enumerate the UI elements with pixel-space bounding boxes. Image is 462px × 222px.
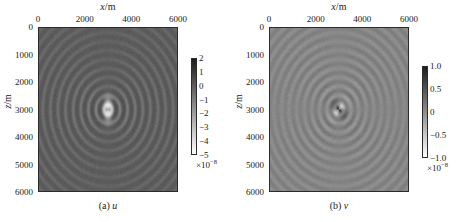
panel-a: x/m 0200040006000 0100020003000400050006… [0, 0, 231, 222]
ytick-label: 6000 [15, 187, 33, 197]
ytick-label: 3000 [246, 105, 264, 115]
panel-a-xlabel: x/m [38, 1, 178, 12]
colorbar-tick-label: −3 [199, 122, 209, 132]
xtick-label: 6000 [400, 14, 418, 24]
panel-b-plot-area [269, 27, 409, 192]
panel-a-colorbar [191, 58, 197, 155]
panel-a-xtick-labels: 0200040006000 [38, 14, 178, 26]
panel-a-caption: (a) u [38, 200, 178, 211]
xtick-label: 4000 [353, 14, 371, 24]
panel-b-xlabel: x/m [269, 1, 409, 12]
ytick-label: 6000 [246, 187, 264, 197]
xtick-label: 2000 [307, 14, 325, 24]
ytick-label: 3000 [15, 105, 33, 115]
xtick-label: 2000 [76, 14, 94, 24]
xtick-label: 0 [36, 14, 41, 24]
ytick-label: 0 [29, 22, 34, 32]
ytick-label: 1000 [246, 50, 264, 60]
panel-b-colorbar [422, 66, 428, 158]
panel-a-plot-area [38, 27, 178, 192]
panel-b-xtick-labels: 0200040006000 [269, 14, 409, 26]
panel-a-ylabel: z/m [2, 82, 13, 122]
colorbar-tick-label: −1 [199, 95, 209, 105]
colorbar-tick-label: 0 [430, 107, 435, 117]
colorbar-tick-label: 2 [199, 53, 204, 63]
ytick-label: 4000 [15, 132, 33, 142]
ytick-label: 1000 [15, 50, 33, 60]
xtick-label: 4000 [122, 14, 140, 24]
colorbar-tick-label: −4 [199, 136, 209, 146]
colorbar-tick-label: 0 [199, 81, 204, 91]
colorbar-tick-label: −2 [199, 108, 209, 118]
ytick-label: 2000 [246, 77, 264, 87]
colorbar-tick-label: 1.0 [430, 61, 441, 71]
panel-b-ylabel: z/m [233, 82, 244, 122]
panel-b-caption: (b) v [269, 200, 409, 211]
xtick-label: 0 [267, 14, 272, 24]
panel-b-colorbar-exponent: ×10−8 [427, 161, 448, 173]
ytick-label: 5000 [15, 160, 33, 170]
colorbar-tick-label: −0.5 [430, 130, 446, 140]
xtick-label: 6000 [169, 14, 187, 24]
ytick-label: 4000 [246, 132, 264, 142]
colorbar-tick-label: 1 [199, 67, 204, 77]
panel-a-colorbar-exponent: ×10−8 [196, 158, 217, 170]
ytick-label: 0 [260, 22, 265, 32]
colorbar-tick-label: 0.5 [430, 84, 441, 94]
ytick-label: 2000 [15, 77, 33, 87]
panel-b: x/m 0200040006000 0100020003000400050006… [231, 0, 462, 222]
figure-container: x/m 0200040006000 0100020003000400050006… [0, 0, 462, 222]
ytick-label: 5000 [246, 160, 264, 170]
